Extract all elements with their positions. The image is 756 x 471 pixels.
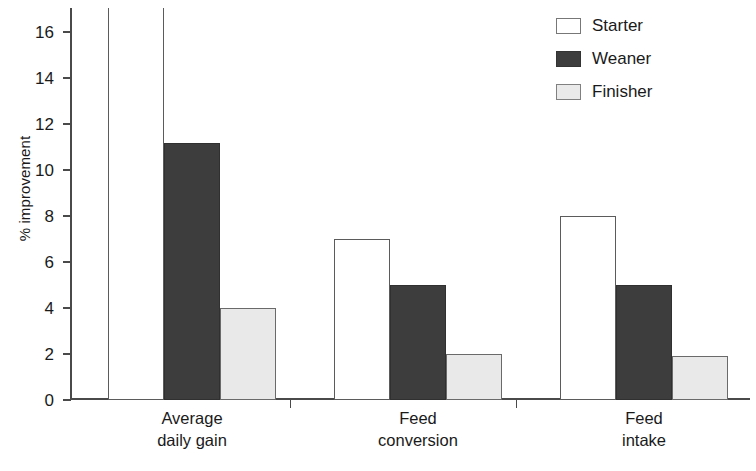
y-axis-tick: 6	[63, 261, 71, 262]
y-axis-tick: 2	[63, 353, 71, 354]
legend-label: Finisher	[592, 83, 652, 100]
legend-label: Weaner	[592, 50, 651, 67]
category-label-line: intake	[524, 430, 756, 452]
legend-item-weaner[interactable]: Weaner	[556, 42, 652, 75]
y-axis-tick-label: 12	[35, 116, 54, 133]
y-axis-tick: 4	[63, 307, 71, 308]
y-axis-line	[70, 8, 72, 400]
bar-starter-2	[334, 239, 390, 400]
category-label-line: Feed	[298, 408, 538, 430]
bar-chart-figure: % improvement 0246810121416 Averagedaily…	[0, 0, 756, 471]
bar-weaner-1	[164, 143, 220, 401]
x-axis-tick	[290, 399, 291, 408]
y-axis-tick-label: 8	[45, 208, 54, 225]
legend-label: Starter	[592, 17, 643, 34]
legend-swatch-icon	[556, 18, 581, 34]
x-axis-category-label: Feedconversion	[298, 408, 538, 452]
y-axis-tick-label: 0	[45, 391, 54, 408]
y-axis-tick: 8	[63, 215, 71, 216]
y-axis-tick-label: 6	[45, 254, 54, 271]
bar-weaner-3	[616, 285, 672, 400]
bar-finisher-1	[220, 308, 276, 400]
y-axis-tick: 0	[63, 399, 71, 400]
legend-swatch-icon	[556, 51, 581, 67]
bar-finisher-2	[446, 354, 502, 400]
chart-legend: StarterWeanerFinisher	[556, 9, 652, 108]
y-axis-title: % improvement	[16, 109, 33, 269]
x-axis-tick	[516, 399, 517, 408]
bar-starter-1	[108, 8, 164, 400]
bar-finisher-3	[672, 356, 728, 400]
y-axis-tick: 12	[63, 123, 71, 124]
legend-item-finisher[interactable]: Finisher	[556, 75, 652, 108]
category-label-line: conversion	[298, 430, 538, 452]
y-axis-tick-label: 2	[45, 346, 54, 363]
y-axis-tick: 16	[63, 31, 71, 32]
y-axis-tick-label: 10	[35, 162, 54, 179]
bar-starter-3	[560, 216, 616, 400]
y-axis-tick: 14	[63, 77, 71, 78]
x-axis-category-label: Feedintake	[524, 408, 756, 452]
y-axis-tick-label: 4	[45, 300, 54, 317]
y-axis-tick-label: 16	[35, 24, 54, 41]
category-label-line: daily gain	[72, 430, 312, 452]
legend-item-starter[interactable]: Starter	[556, 9, 652, 42]
legend-swatch-icon	[556, 84, 581, 100]
category-label-line: Average	[72, 408, 312, 430]
x-axis-category-label: Averagedaily gain	[72, 408, 312, 452]
y-axis-tick-label: 14	[35, 70, 54, 87]
y-axis-tick: 10	[63, 169, 71, 170]
category-label-line: Feed	[524, 408, 756, 430]
bar-weaner-2	[390, 285, 446, 400]
